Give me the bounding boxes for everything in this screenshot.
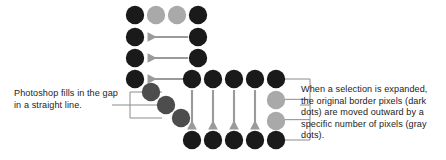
dot-dark xyxy=(246,70,264,88)
dot-light xyxy=(168,6,186,24)
dot-light xyxy=(267,91,285,109)
dot-mid xyxy=(172,109,190,127)
dot-dark xyxy=(267,70,285,88)
dot-dark xyxy=(126,6,144,24)
dot-mid xyxy=(142,83,160,101)
dot-dark xyxy=(189,6,207,24)
dot-dark xyxy=(225,70,243,88)
dot-dark xyxy=(189,49,207,67)
dot-dark xyxy=(126,49,144,67)
dot-dark xyxy=(126,28,144,46)
dot-mid xyxy=(157,96,175,114)
caption-left: Photoshop fills in the gap in a straight… xyxy=(14,88,126,111)
dot-light xyxy=(147,6,165,24)
dot-dark xyxy=(204,131,222,149)
dot-dark xyxy=(126,70,144,88)
dot-dark xyxy=(225,131,243,149)
dot-dark xyxy=(267,131,285,149)
dot-dark xyxy=(183,131,201,149)
dot-dark xyxy=(204,70,222,88)
dot-dark xyxy=(189,28,207,46)
dot-light xyxy=(267,112,285,130)
figure-canvas: Photoshop fills in the gap in a straight… xyxy=(0,0,446,160)
dot-group xyxy=(126,6,285,149)
dot-dark xyxy=(183,70,201,88)
dot-dark xyxy=(246,131,264,149)
bracket-group xyxy=(112,79,310,140)
caption-right: When a selection is expanded, the origin… xyxy=(301,84,443,142)
